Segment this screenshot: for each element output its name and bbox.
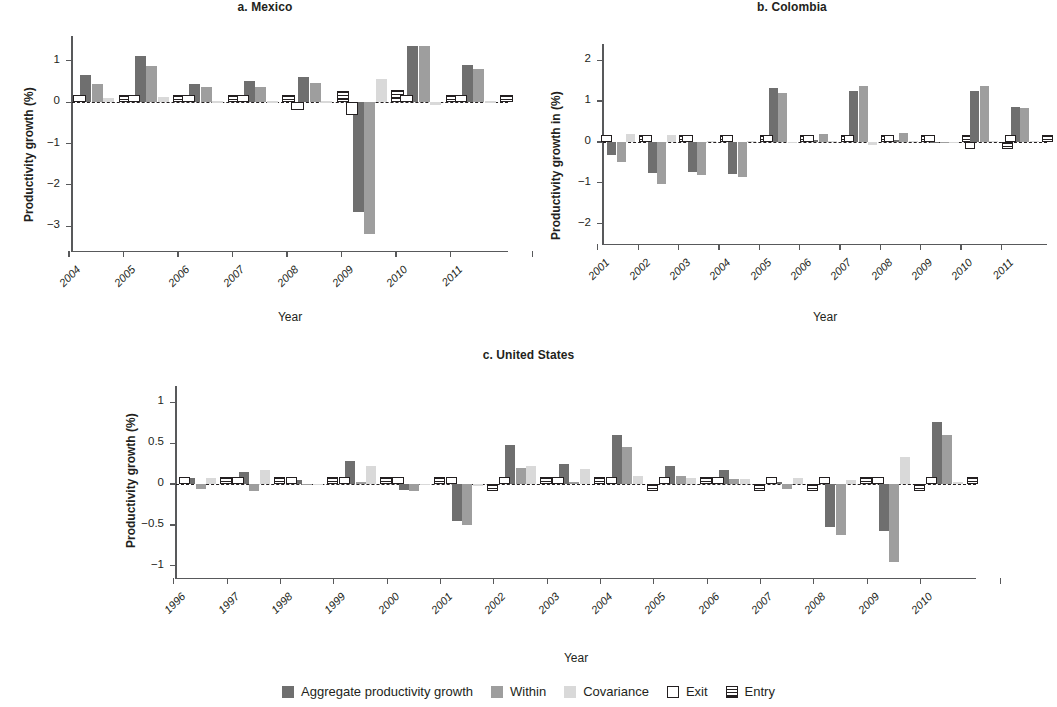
box-entry [500,95,513,102]
plot-area-mexico: 10−1−2−320042005200620072008200920102011 [72,36,508,251]
bar-within [836,484,846,535]
legend-item-within[interactable]: Within [491,684,546,699]
x-tick-mark [387,578,388,584]
x-tick-label: 2010 [898,590,935,627]
x-tick-mark [227,578,228,584]
y-tick-label: −0.5 [124,517,164,529]
zero-baseline [176,484,976,485]
bar-covariance [953,482,963,484]
plot-area-united-states: 10.50−0.5−119961997199819992000200120022… [176,386,976,578]
y-tick-label: 0 [124,476,164,488]
bar-covariance [1030,141,1039,142]
x-tick-label: 2002 [615,256,652,293]
bar-aggregate [399,484,409,490]
y-tick-mark [597,60,603,61]
y-tick-mark [170,402,176,403]
box-entry [594,477,606,484]
panel-title-mexico: a. Mexico [0,0,530,14]
box-exit [128,95,141,102]
bar-covariance [313,484,323,485]
x-tick-mark [597,244,598,250]
x-tick-label: 2000 [364,590,401,627]
bar-within [899,133,908,142]
x-tick-mark [960,244,961,250]
box-entry [754,484,766,491]
box-exit [286,477,298,484]
legend-item-aggregate-productivity-growth[interactable]: Aggregate productivity growth [282,684,473,699]
box-entry [807,484,819,491]
bar-within [462,484,472,525]
x-tick-mark [232,251,233,257]
bar-covariance [420,484,430,485]
x-tick-label: 2005 [631,590,668,627]
box-exit [642,135,653,142]
bar-covariance [667,135,676,142]
box-exit [924,135,935,142]
x-tick-mark [920,578,921,584]
bar-within [676,476,686,484]
box-entry [220,477,232,484]
x-tick-mark [799,244,800,250]
x-tick-mark [450,251,451,257]
box-exit [455,95,468,102]
bar-covariance [485,101,496,102]
bar-within [617,142,626,162]
y-tick-label: 2 [551,52,591,64]
bar-within [942,435,952,484]
box-exit [73,95,86,102]
bar-covariance [103,98,114,102]
x-tick-label: 1999 [311,590,348,627]
bar-covariance [376,79,387,102]
y-tick-label: −1 [124,558,164,570]
legend-label: Aggregate productivity growth [301,684,473,699]
box-exit [682,135,693,142]
y-tick-label: −1 [20,136,60,148]
panel-mexico: a. Mexico Productivity growth (%) 10−1−2… [0,0,530,340]
bar-within [302,484,312,485]
x-axis-label-mexico: Year [72,310,508,324]
box-exit [1005,135,1016,142]
legend-item-covariance[interactable]: Covariance [564,684,649,699]
x-tick-mark [760,578,761,584]
y-tick-mark [66,226,72,227]
bar-within [697,142,706,175]
chart-legend: Aggregate productivity growthWithinCovar… [0,684,1057,699]
bar-aggregate [407,46,418,102]
y-tick-mark [66,143,72,144]
x-tick-label: 2006 [777,256,814,293]
box-entry [700,477,712,484]
box-exit [819,477,831,484]
box-entry [380,477,392,484]
y-tick-mark [597,182,603,183]
box-exit [291,102,304,110]
box-exit [659,477,671,484]
legend-item-entry[interactable]: Entry [726,684,775,699]
x-tick-label: 2009 [844,590,881,627]
legend-swatch-lined-icon [726,686,738,698]
legend-swatch-solid-icon [282,686,294,698]
bar-covariance [366,466,376,484]
bar-aggregate [930,142,939,143]
box-exit [844,135,855,142]
x-tick-mark [493,578,494,584]
x-tick-label: 2006 [684,590,721,627]
bar-within [782,484,792,489]
box-exit [232,477,244,484]
panel-title-united-states: c. United States [0,348,1057,362]
bar-within [249,484,259,491]
plot-area-colombia: 210−1−2200120022003200420052006200720082… [603,44,1047,244]
x-tick-mark [920,244,921,250]
legend-item-exit[interactable]: Exit [667,684,708,699]
bar-within [146,66,157,102]
x-tick-label: 2011 [979,256,1016,293]
bar-covariance [633,476,643,484]
x-tick-label: 2010 [373,263,410,300]
y-tick-label: 1 [20,53,60,65]
y-tick-mark [597,100,603,101]
bar-covariance [788,142,797,143]
x-tick-label: 2001 [575,256,612,293]
bar-within [419,46,430,102]
bar-within [201,87,212,102]
bar-covariance [846,480,856,484]
x-tick-mark [839,244,840,250]
